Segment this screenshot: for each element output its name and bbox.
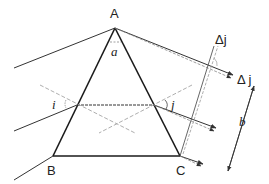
prism-diagram-svg — [0, 0, 269, 184]
prism-diagram: A B C a i j Δj Δ j b — [0, 0, 269, 184]
apex-angle-label: a — [111, 45, 118, 58]
vertex-c-label: C — [176, 164, 185, 177]
exit-angle-label: j — [171, 98, 175, 111]
incoming-rays — [14, 28, 115, 180]
vertex-a-label: A — [110, 7, 119, 20]
surface-normals — [40, 85, 192, 133]
delta-j-right-label: Δ j — [237, 73, 251, 86]
delta-j-top-label: Δj — [215, 33, 227, 46]
wavefront-lines — [180, 46, 218, 156]
beam-width-label: b — [239, 115, 246, 128]
incidence-angle-label: i — [52, 98, 56, 111]
vertex-b-label: B — [47, 164, 56, 177]
